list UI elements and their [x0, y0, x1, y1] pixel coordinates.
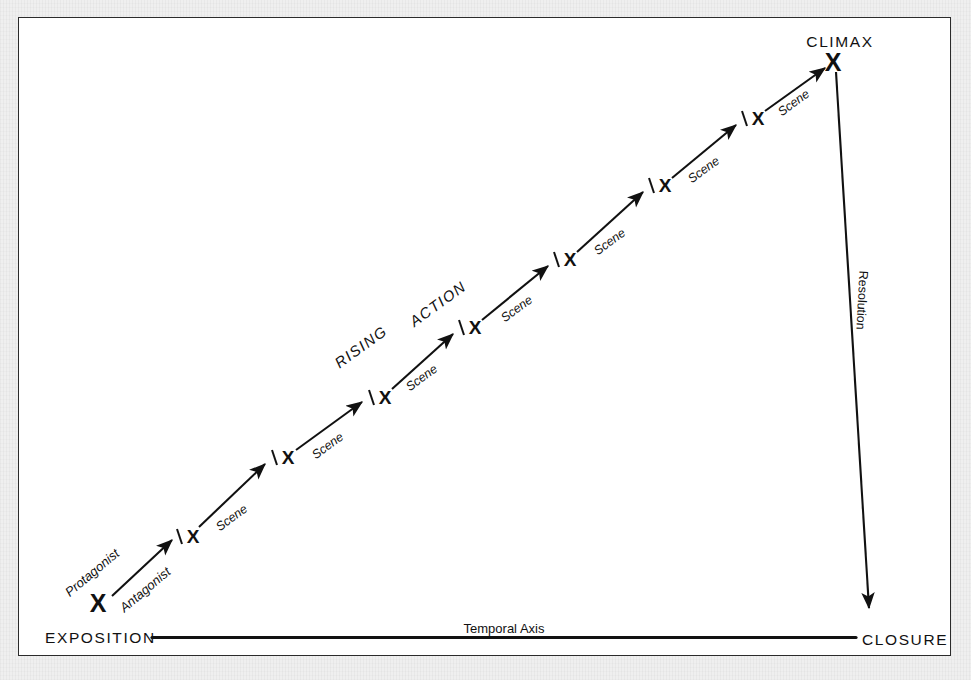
closure-label: CLOSURE — [862, 631, 948, 648]
diagram-svg: Temporal Axis EXPOSITION CLOSURE Resolut… — [0, 0, 971, 680]
antagonist-label: Antagonist — [116, 563, 175, 616]
node-marker-7: X — [752, 108, 765, 129]
node-marker-5: X — [564, 249, 577, 270]
scene-label-4: Scene — [498, 293, 535, 325]
exposition-label: EXPOSITION — [45, 629, 156, 646]
start-node-marker: X — [90, 589, 107, 617]
start-node-group: X Protagonist Antagonist — [62, 545, 174, 617]
scene-node-7: X — [742, 108, 765, 129]
resolution-label: Resolution — [853, 270, 870, 330]
dramatic-structure-diagram: Temporal Axis EXPOSITION CLOSURE Resolut… — [0, 0, 971, 680]
node-tick-5 — [554, 252, 559, 267]
scene-node-2: X — [272, 447, 295, 468]
resolution-arrow — [836, 72, 869, 608]
node-tick-1 — [177, 529, 182, 544]
temporal-axis-group: Temporal Axis — [152, 621, 856, 638]
scene-label-6: Scene — [685, 154, 722, 186]
scene-label-1: Scene — [213, 502, 250, 534]
climax-node-group: CLIMAX X — [806, 33, 873, 76]
node-marker-4: X — [469, 317, 482, 338]
rising-action-label-group: RISING ACTION — [331, 277, 469, 371]
node-tick-3 — [369, 390, 374, 405]
node-marker-1: X — [187, 526, 200, 547]
node-tick-4 — [459, 320, 464, 335]
temporal-axis-label: Temporal Axis — [464, 621, 545, 636]
node-tick-2 — [272, 450, 277, 465]
node-marker-6: X — [659, 175, 672, 196]
scene-node-4: X — [459, 317, 482, 338]
node-marker-3: X — [379, 387, 392, 408]
node-tick-6 — [649, 178, 654, 193]
scene-labels-group: Scene Scene Scene Scene Scene Scene Scen… — [213, 87, 812, 534]
scene-label-5: Scene — [591, 226, 628, 258]
resolution-group: Resolution — [836, 72, 871, 608]
climax-node-marker: X — [825, 48, 842, 76]
figure-page: Temporal Axis EXPOSITION CLOSURE Resolut… — [0, 0, 971, 680]
scene-node-1: X — [177, 526, 200, 547]
scene-label-2: Scene — [309, 430, 346, 462]
scene-node-5: X — [554, 249, 577, 270]
scene-label-3: Scene — [403, 362, 440, 394]
scene-node-3: X — [369, 387, 392, 408]
scene-node-6: X — [649, 175, 672, 196]
node-marker-2: X — [282, 447, 295, 468]
node-tick-7 — [742, 111, 747, 126]
rising-label: RISING — [331, 322, 390, 371]
